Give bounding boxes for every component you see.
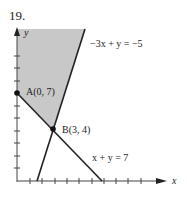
line1-label: −3x + y = −5	[90, 38, 143, 49]
shaded-region	[17, 29, 85, 129]
point-b	[50, 126, 56, 132]
x-axis-label: x	[172, 175, 176, 186]
line2-label: x + y = 7	[92, 152, 128, 163]
point-b-label: B(3, 4)	[62, 124, 90, 135]
point-a	[14, 90, 20, 96]
x-axis-arrow-icon	[156, 178, 167, 184]
y-axis-label: y	[24, 27, 28, 38]
point-a-label: A(0, 7)	[26, 86, 55, 97]
